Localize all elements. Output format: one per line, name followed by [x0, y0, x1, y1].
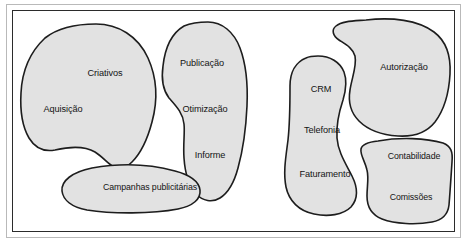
label-aquisicao: Aquisição: [44, 104, 83, 114]
blob-crm-telefonia-faturamento: [285, 56, 357, 215]
blob-diagram: Criativos Aquisição Publicação Otimizaçã…: [0, 0, 466, 246]
label-faturamento: Faturamento: [300, 169, 351, 179]
label-publicacao: Publicação: [180, 58, 224, 68]
label-campanhas-publicitarias: Campanhas publicitárias: [103, 182, 198, 192]
diagram-canvas: Criativos Aquisição Publicação Otimizaçã…: [0, 0, 466, 246]
label-otimizacao: Otimização: [183, 104, 228, 114]
label-autorizacao: Autorização: [380, 62, 427, 72]
blob-autorizacao: [333, 19, 450, 136]
label-crm: CRM: [311, 84, 332, 94]
label-informe: Informe: [195, 150, 225, 160]
label-telefonia: Telefonia: [304, 125, 341, 135]
label-criativos: Criativos: [88, 68, 123, 78]
blob-criativos-aquisicao: [21, 24, 156, 168]
label-contabilidade: Contabilidade: [388, 151, 441, 161]
label-comissoes: Comissões: [390, 192, 433, 202]
